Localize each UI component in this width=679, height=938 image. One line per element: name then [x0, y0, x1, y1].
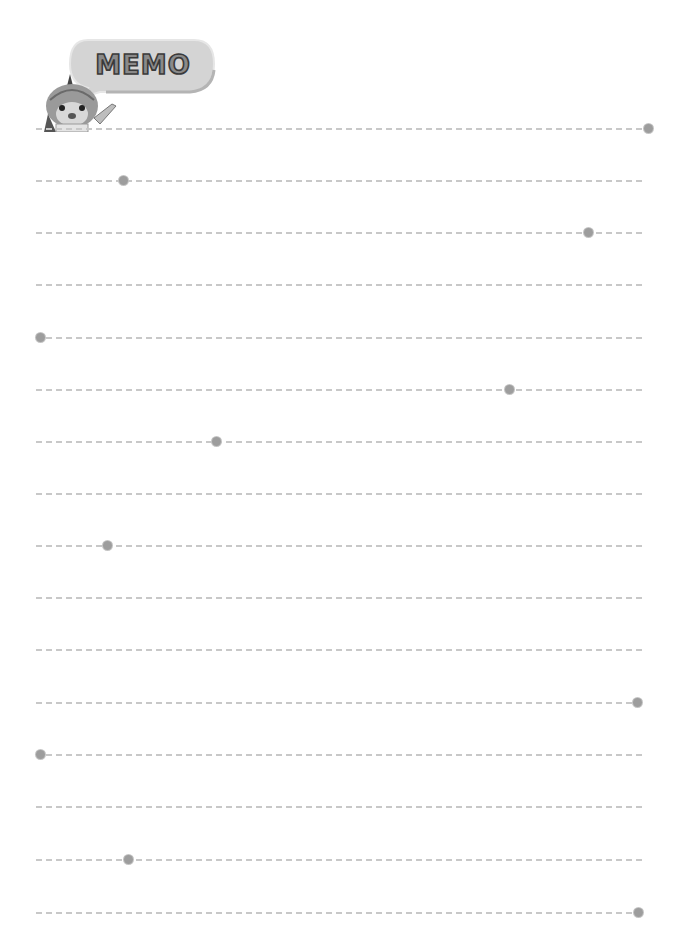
- memo-header: MEMO: [0, 0, 679, 135]
- dot-icon: [634, 908, 643, 917]
- dot-icon: [103, 541, 112, 550]
- dot-icon: [212, 437, 221, 446]
- ruled-line: [36, 754, 642, 756]
- dot-icon: [119, 176, 128, 185]
- ruled-line: [36, 649, 642, 651]
- ruled-line: [36, 389, 642, 391]
- dot-icon: [644, 124, 653, 133]
- dot-icon: [36, 333, 45, 342]
- ruled-line: [36, 337, 642, 339]
- dot-icon: [633, 698, 642, 707]
- ruled-line: [36, 545, 642, 547]
- ruled-line: [36, 912, 642, 914]
- ruled-line: [36, 493, 642, 495]
- ruled-line: [36, 702, 642, 704]
- dot-icon: [505, 385, 514, 394]
- ruled-line: [36, 806, 642, 808]
- ruled-line: [36, 597, 642, 599]
- mascot-icon: [40, 70, 120, 132]
- dot-icon: [124, 855, 133, 864]
- ruled-line: [36, 284, 642, 286]
- ruled-line: [36, 128, 642, 130]
- dot-icon: [584, 228, 593, 237]
- dot-icon: [36, 750, 45, 759]
- ruled-line: [36, 441, 642, 443]
- ruled-line: [36, 232, 642, 234]
